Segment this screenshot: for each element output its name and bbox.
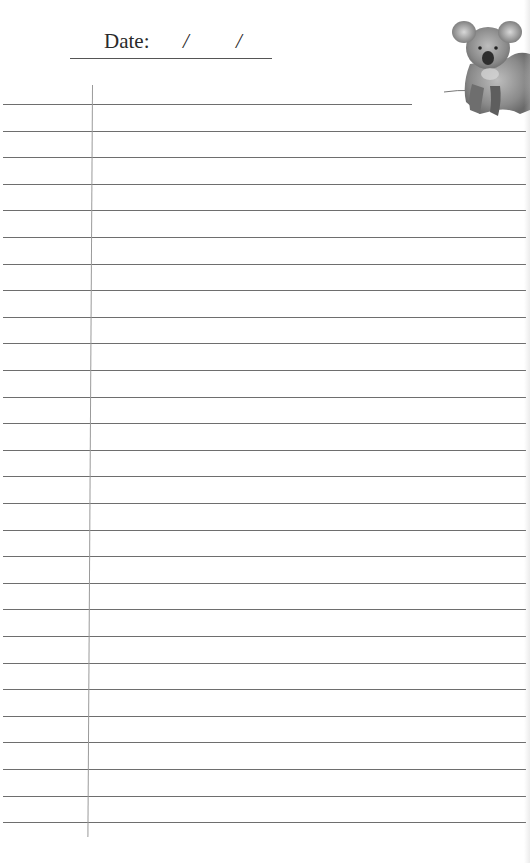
ruled-line [3, 131, 526, 132]
ruled-line [3, 609, 526, 610]
koala-icon [440, 14, 530, 118]
ruled-line [3, 503, 526, 504]
ruled-line [3, 290, 526, 291]
ruled-line [3, 796, 526, 797]
ruled-line [3, 476, 526, 477]
ruled-line [3, 343, 526, 344]
ruled-line [3, 317, 526, 318]
notepad-page: Date: / / [0, 0, 530, 863]
ruled-line [3, 716, 526, 717]
ruled-line [3, 104, 412, 105]
koala-illustration [440, 14, 530, 118]
ruled-line [3, 663, 526, 664]
ruled-line [3, 822, 526, 823]
ruled-line [3, 184, 526, 185]
ruled-line [3, 237, 526, 238]
ruled-line [3, 583, 526, 584]
ruled-line [3, 397, 526, 398]
ruled-line [3, 636, 526, 637]
ruled-line [3, 742, 526, 743]
ruled-line [3, 370, 526, 371]
ruled-line [3, 556, 526, 557]
date-field[interactable]: Date: / / [70, 28, 272, 60]
margin-line [87, 85, 93, 837]
ruled-line [3, 689, 526, 690]
ruled-line [3, 157, 526, 158]
page-edge-shadow [524, 0, 530, 863]
date-separator-2: / [236, 28, 242, 54]
date-separator-1: / [183, 28, 189, 54]
ruled-line [3, 423, 526, 424]
ruled-line [3, 210, 526, 211]
ruled-line [3, 769, 526, 770]
date-label: Date: [104, 28, 149, 54]
ruled-line [3, 264, 526, 265]
ruled-line [3, 450, 526, 451]
ruled-line [3, 530, 526, 531]
date-underline [70, 58, 272, 59]
